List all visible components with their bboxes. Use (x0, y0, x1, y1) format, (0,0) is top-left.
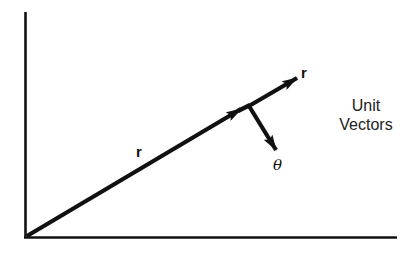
caption-line-unit: Unit (334, 96, 398, 115)
position-vector-label: r (136, 143, 142, 160)
unit-vectors-caption: Unit Vectors (334, 96, 398, 134)
position-vector-r (27, 109, 241, 236)
unit-vector-r-arrow (249, 78, 297, 106)
unit-theta-label: θ (273, 156, 282, 174)
unit-vector-theta-arrow (249, 106, 276, 150)
unit-r-label: r (301, 64, 307, 81)
caption-line-vectors: Vectors (334, 115, 398, 134)
